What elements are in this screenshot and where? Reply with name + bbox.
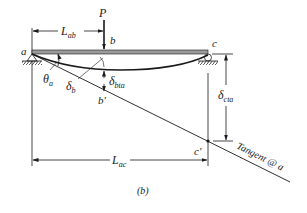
svg-text:δcta: δcta bbox=[218, 88, 233, 104]
point-c-prime bbox=[206, 139, 209, 142]
label-delta-b: δb bbox=[66, 79, 76, 95]
svg-text:P: P bbox=[98, 6, 107, 20]
tangent-line-a bbox=[32, 54, 290, 182]
leader-delta-b bbox=[78, 58, 103, 79]
label-theta-a: θa bbox=[43, 72, 53, 88]
label-point-a: a bbox=[21, 45, 27, 57]
load-arrow-P: P bbox=[98, 6, 107, 49]
label-point-c-prime: c′ bbox=[194, 145, 202, 157]
label-point-b-prime: b′ bbox=[98, 94, 107, 106]
angle-arc-theta-a bbox=[58, 54, 59, 66]
figure-caption: (b) bbox=[137, 185, 149, 197]
svg-text:Lac: Lac bbox=[111, 153, 127, 169]
label-point-b: b bbox=[110, 34, 116, 46]
dimension-L-ac: Lac bbox=[33, 153, 207, 169]
beam-deflection-diagram: Lab P b a c Tangent @ a θa δb δbta b′ bbox=[0, 0, 307, 213]
dimension-L-ab: Lab bbox=[33, 24, 103, 40]
dimension-delta-cta: δcta bbox=[212, 54, 233, 141]
label-point-c: c bbox=[212, 37, 217, 49]
beam bbox=[32, 50, 208, 54]
svg-text:Lab: Lab bbox=[60, 24, 76, 40]
dimension-delta-bta: δbta bbox=[104, 71, 125, 91]
svg-text:δbta: δbta bbox=[109, 74, 125, 90]
